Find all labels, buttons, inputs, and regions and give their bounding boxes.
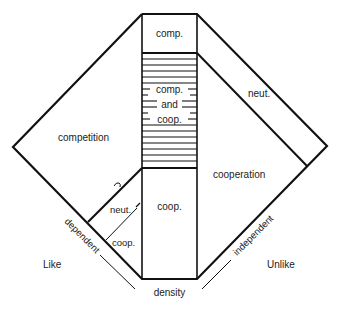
hatch-lines: [142, 59, 197, 161]
label-hatched-and: and: [161, 99, 178, 110]
label-coop-lower-left: coop.: [112, 237, 135, 248]
label-hatched-coop: coop.: [157, 114, 181, 125]
label-dependent: dependent: [63, 216, 103, 256]
label-like: Like: [43, 259, 62, 270]
interaction-diagram: comp. comp. and coop. competition neut. …: [0, 0, 338, 311]
label-neut-right: neut.: [248, 88, 270, 99]
tick-mark: [136, 203, 140, 207]
label-neut-lower-left: neut.: [110, 204, 131, 215]
independent-axis-line: [202, 260, 231, 289]
label-independent: independent: [231, 212, 276, 257]
label-density: density: [154, 287, 186, 298]
dependent-axis-line: [100, 255, 135, 289]
label-coop-bottom: coop.: [157, 201, 181, 212]
label-hatched-comp: comp.: [156, 84, 183, 95]
squiggle-mark: [114, 183, 120, 187]
label-cooperation: cooperation: [213, 169, 265, 180]
label-unlike: Unlike: [267, 259, 295, 270]
label-competition: competition: [58, 132, 109, 143]
label-top-comp: comp.: [156, 28, 183, 39]
